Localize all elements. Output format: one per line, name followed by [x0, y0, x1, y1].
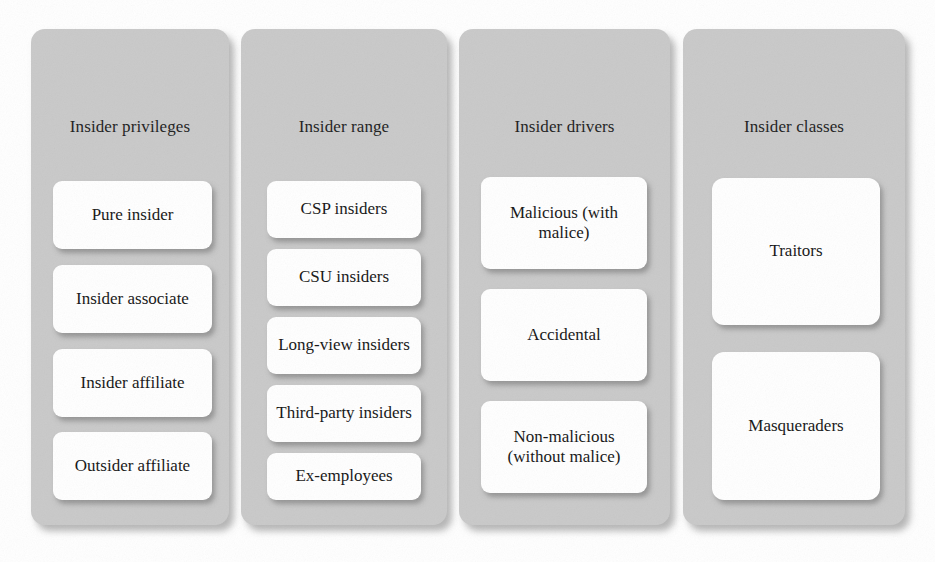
node-label: Ex-employees — [295, 466, 392, 486]
panel-title-insider-drivers: Insider drivers — [459, 117, 670, 137]
node-malicious-with-malice: Malicious (with malice) — [481, 177, 647, 269]
node-label: Malicious (with malice) — [486, 203, 642, 243]
node-label: Insider associate — [76, 289, 189, 309]
panel-title-insider-range: Insider range — [241, 117, 447, 137]
panel-insider-classes: Insider classes Traitors Masqueraders — [683, 29, 905, 525]
node-label: Long-view insiders — [278, 335, 410, 355]
node-label: Pure insider — [92, 205, 174, 225]
node-label: Outsider affiliate — [75, 456, 190, 476]
node-traitors: Traitors — [712, 178, 880, 325]
node-label: Accidental — [527, 325, 601, 345]
node-accidental: Accidental — [481, 289, 647, 381]
panel-insider-privileges: Insider privileges Pure insider Insider … — [31, 29, 229, 525]
node-third-party-insiders: Third-party insiders — [267, 385, 421, 442]
node-masqueraders: Masqueraders — [712, 352, 880, 500]
node-label: Masqueraders — [748, 416, 843, 436]
node-pure-insider: Pure insider — [53, 181, 212, 249]
node-csp-insiders: CSP insiders — [267, 181, 421, 238]
panel-insider-drivers: Insider drivers Malicious (with malice) … — [459, 29, 670, 525]
panel-insider-range: Insider range CSP insiders CSU insiders … — [241, 29, 447, 525]
node-insider-associate: Insider associate — [53, 265, 212, 333]
node-insider-affiliate: Insider affiliate — [53, 349, 212, 417]
node-label: Third-party insiders — [276, 403, 412, 423]
node-label: Insider affiliate — [80, 373, 184, 393]
panel-title-insider-classes: Insider classes — [683, 117, 905, 137]
node-label: Non-malicious (without malice) — [486, 427, 642, 467]
node-label: CSP insiders — [301, 199, 388, 219]
node-ex-employees: Ex-employees — [267, 453, 421, 500]
panel-title-insider-privileges: Insider privileges — [31, 117, 229, 137]
node-csu-insiders: CSU insiders — [267, 249, 421, 306]
node-non-malicious-without-malice: Non-malicious (without malice) — [481, 401, 647, 493]
node-long-view-insiders: Long-view insiders — [267, 317, 421, 374]
node-outsider-affiliate: Outsider affiliate — [53, 432, 212, 500]
node-label: Traitors — [769, 241, 822, 261]
taxonomy-diagram: Insider privileges Pure insider Insider … — [0, 0, 935, 562]
node-label: CSU insiders — [299, 267, 389, 287]
